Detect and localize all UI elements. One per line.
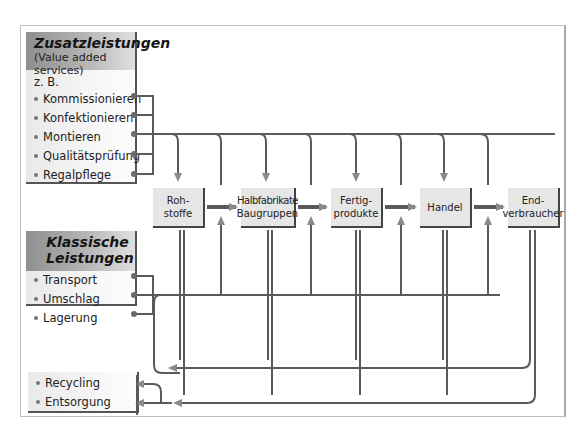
flow-lines xyxy=(0,0,584,439)
